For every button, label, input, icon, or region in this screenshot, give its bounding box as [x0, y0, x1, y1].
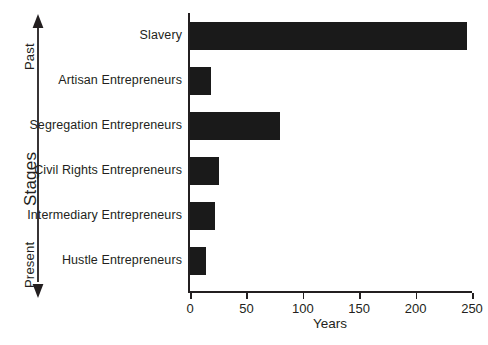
x-tick-mark	[416, 293, 418, 299]
category-label: Hustle Entrepreneurs	[62, 253, 182, 267]
x-tick-label: 200	[405, 301, 427, 316]
x-tick-label: 50	[239, 301, 253, 316]
x-axis-line	[188, 291, 472, 293]
stages-axis-annotation: Past Stages Present	[0, 0, 48, 300]
bar	[190, 157, 219, 185]
x-tick-mark	[359, 293, 361, 299]
category-label: Civil Rights Entrepreneurs	[34, 163, 182, 177]
plot-area: 050100150200250	[188, 13, 484, 293]
x-tick-label: 100	[292, 301, 314, 316]
bar	[190, 112, 280, 140]
bar	[190, 67, 211, 95]
x-tick-label: 250	[461, 301, 483, 316]
category-label: Segregation Entrepreneurs	[29, 118, 182, 132]
category-label: Slavery	[140, 28, 182, 42]
bar-chart: Past Stages Present 050100150200250 Slav…	[0, 0, 488, 345]
axis-label-past: Past	[22, 43, 37, 70]
x-tick-mark	[190, 293, 192, 299]
bar	[190, 202, 215, 230]
category-label: Artisan Entrepreneurs	[58, 73, 182, 87]
category-label: Intermediary Entrepreneurs	[27, 208, 182, 222]
x-axis-title: Years	[188, 316, 472, 331]
x-tick-label: 150	[348, 301, 370, 316]
x-tick-mark	[303, 293, 305, 299]
y-axis-title: Stages	[21, 152, 41, 206]
x-tick-mark	[246, 293, 248, 299]
x-tick-mark	[472, 293, 474, 299]
axis-label-present: Present	[22, 242, 37, 288]
bar	[190, 247, 206, 275]
bar	[190, 22, 467, 50]
x-tick-label: 0	[186, 301, 193, 316]
